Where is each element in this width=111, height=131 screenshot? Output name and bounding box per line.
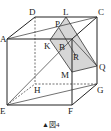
label-R: R xyxy=(73,52,79,62)
label-C: C xyxy=(98,7,104,17)
label-B: B xyxy=(59,42,65,52)
label-Q: Q xyxy=(99,62,106,72)
label-D: D xyxy=(29,7,36,17)
label-A: A xyxy=(0,34,7,44)
label-H: H xyxy=(34,85,41,95)
label-F: F xyxy=(68,106,73,116)
label-L: L xyxy=(63,7,69,17)
cube-diagram: A D C B E F G H L P K R Q M ▲ 図4 xyxy=(0,0,111,131)
figure-caption: 図4 xyxy=(49,121,60,129)
label-P: P xyxy=(55,19,60,29)
label-E: E xyxy=(0,106,6,116)
label-K: K xyxy=(44,41,51,51)
caption-marker: ▲ xyxy=(42,121,49,129)
label-M: M xyxy=(61,70,69,80)
label-G: G xyxy=(97,85,104,95)
diagonal-EG xyxy=(7,84,97,105)
